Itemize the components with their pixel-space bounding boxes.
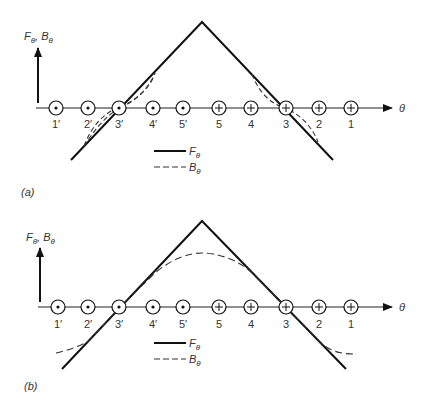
conductor-cross — [212, 101, 226, 115]
conductor-dot — [112, 101, 126, 115]
mmf-flux-diagram: Fθ, Bθ θ — [0, 0, 427, 404]
conductor-label: 2 — [316, 118, 322, 130]
legend-label-b: Bθ — [189, 353, 201, 368]
conductor-label: 4′ — [149, 118, 157, 130]
conductor-dot — [81, 101, 95, 115]
conductor-label: 1′ — [54, 318, 62, 330]
conductor-label: 4′ — [149, 318, 157, 330]
conductor-dot — [146, 300, 160, 314]
legend-label-f: Fθ — [189, 145, 201, 160]
conductor-cross — [312, 101, 326, 115]
conductor-dot — [49, 101, 63, 115]
conductor-label: 4 — [248, 118, 254, 130]
conductor-cross — [244, 101, 258, 115]
conductor-dot — [176, 300, 190, 314]
panel-b: Fθ, Bθ θ 1′ 2′ 3′ 4′ 5′ 5 4 — [24, 221, 405, 392]
mmf-curve — [71, 22, 333, 160]
y-axis-label: Fθ, Bθ — [24, 30, 54, 45]
conductor-label: 5 — [216, 118, 222, 130]
conductor-label: 5′ — [179, 118, 187, 130]
conductor-dot — [176, 101, 190, 115]
conductor-cross — [312, 300, 326, 314]
conductor-label: 1 — [348, 318, 354, 330]
conductor-label: 2′ — [84, 118, 92, 130]
legend-label-b: Bθ — [189, 161, 201, 176]
flux-curve — [56, 253, 354, 354]
conductor-label: 3′ — [115, 118, 123, 130]
x-axis-label: θ — [399, 102, 405, 114]
panel-caption: (b) — [24, 380, 38, 392]
legend: Fθ Bθ — [154, 145, 201, 176]
conductor-label: 3 — [283, 118, 289, 130]
conductor-label: 5 — [216, 318, 222, 330]
conductor-label: 1 — [348, 118, 354, 130]
conductor-dot — [112, 300, 126, 314]
panel-caption: (a) — [21, 186, 35, 198]
conductor-label: 1′ — [52, 118, 60, 130]
conductor-cross — [344, 300, 358, 314]
conductor-cross — [212, 300, 226, 314]
conductor-label: 4 — [248, 318, 254, 330]
conductor-cross — [279, 300, 293, 314]
conductor-label: 3′ — [115, 318, 123, 330]
y-axis-label: Fθ, Bθ — [26, 231, 56, 246]
panel-a: Fθ, Bθ θ — [21, 22, 405, 198]
legend-label-f: Fθ — [189, 337, 201, 352]
conductor-labels: 1′ 2′ 3′ 4′ 5′ 5 4 3 2 1 — [52, 118, 354, 130]
conductor-cross — [244, 300, 258, 314]
conductor-cross — [344, 101, 358, 115]
conductor-label: 3 — [283, 318, 289, 330]
conductor-dot — [81, 300, 95, 314]
conductor-label: 2′ — [84, 318, 92, 330]
mmf-curve — [62, 221, 346, 369]
conductor-label: 2 — [316, 318, 322, 330]
legend: Fθ Bθ — [154, 337, 201, 368]
conductor-dot — [51, 300, 65, 314]
conductor-cross — [279, 101, 293, 115]
x-axis-label: θ — [399, 301, 405, 313]
conductor-labels: 1′ 2′ 3′ 4′ 5′ 5 4 3 2 1 — [54, 318, 354, 330]
conductor-label: 5′ — [179, 318, 187, 330]
conductor-dot — [146, 101, 160, 115]
